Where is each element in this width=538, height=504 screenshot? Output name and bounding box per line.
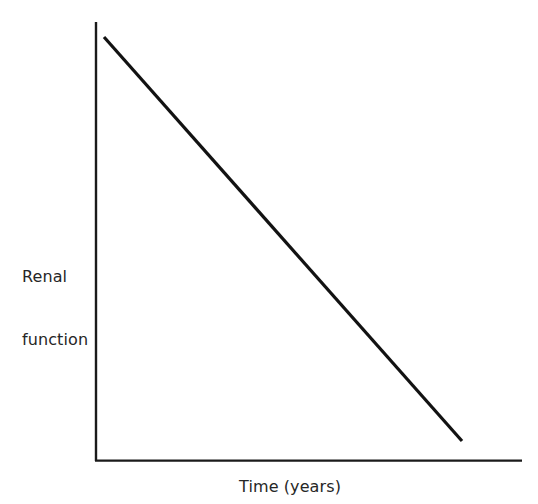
data-line-renal-function xyxy=(104,37,462,441)
y-axis-label-line-2: function xyxy=(22,329,88,350)
chart-figure: Renal function Time (years) xyxy=(0,0,538,504)
x-axis-label: Time (years) xyxy=(0,476,538,497)
y-axis-label: Renal function xyxy=(22,224,88,392)
y-axis-label-line-1: Renal xyxy=(22,266,88,287)
